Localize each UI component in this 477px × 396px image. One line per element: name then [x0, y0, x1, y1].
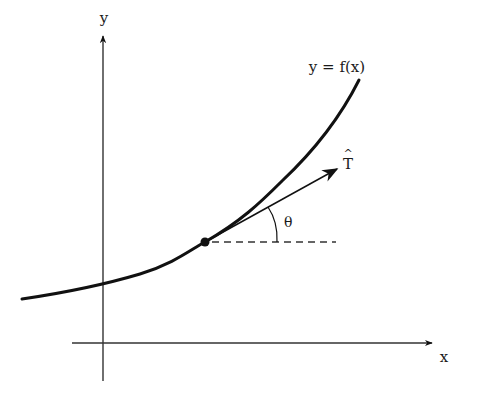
- tangent-letter: T: [343, 155, 353, 173]
- tangent-diagram: x y y = f(x) ^ T θ: [0, 0, 477, 396]
- angle-arc: [268, 207, 277, 242]
- y-axis-label: y: [99, 9, 109, 27]
- tangent-point: [201, 238, 210, 247]
- angle-label: θ: [284, 214, 292, 230]
- x-axis-label: x: [440, 348, 449, 366]
- function-curve: [22, 80, 359, 299]
- tangent-vector: [205, 169, 337, 242]
- curve-label: y = f(x): [308, 58, 365, 76]
- tangent-vector-label: ^ T: [343, 147, 353, 173]
